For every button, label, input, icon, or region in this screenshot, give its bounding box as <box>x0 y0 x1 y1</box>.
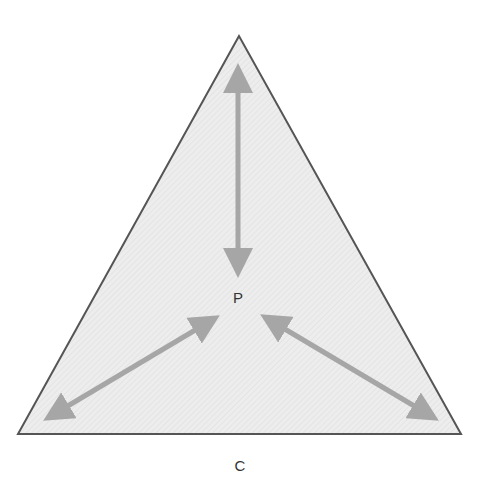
base-label: C <box>235 457 246 474</box>
center-label: P <box>233 289 243 306</box>
triangle-diagram: P C <box>0 0 487 494</box>
